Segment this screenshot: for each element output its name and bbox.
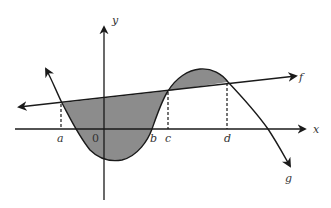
curve-f-label: f bbox=[298, 71, 305, 84]
marker-a-label: a bbox=[57, 132, 64, 145]
area-between-curves-diagram: y x f g 0 a b c d bbox=[0, 0, 331, 208]
x-axis-label: x bbox=[313, 123, 320, 136]
origin-label: 0 bbox=[92, 132, 99, 145]
curve-g-label: g bbox=[285, 172, 292, 185]
shaded-region-a-to-c bbox=[62, 91, 168, 161]
marker-b-label: b bbox=[150, 132, 157, 145]
marker-d-label: d bbox=[224, 132, 231, 145]
y-axis-label: y bbox=[111, 14, 119, 27]
marker-c-label: c bbox=[165, 132, 171, 145]
